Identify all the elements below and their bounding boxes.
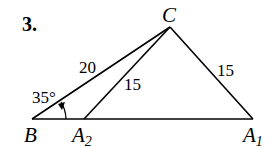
length-ca1: 15 [217,61,234,80]
label-c: C [162,3,177,27]
triangle-diagram: 3. C B A2 A1 20 15 15 35° [0,0,276,147]
problem-number: 3. [22,13,37,35]
label-b: B [24,123,37,147]
length-ca2: 15 [124,75,141,94]
segment-c-a1 [170,27,253,119]
label-a2: A2 [70,123,92,147]
segment-a2-c [84,27,170,119]
angle-b: 35° [32,88,56,107]
label-a1: A1 [241,123,263,147]
length-bc: 20 [79,58,96,77]
